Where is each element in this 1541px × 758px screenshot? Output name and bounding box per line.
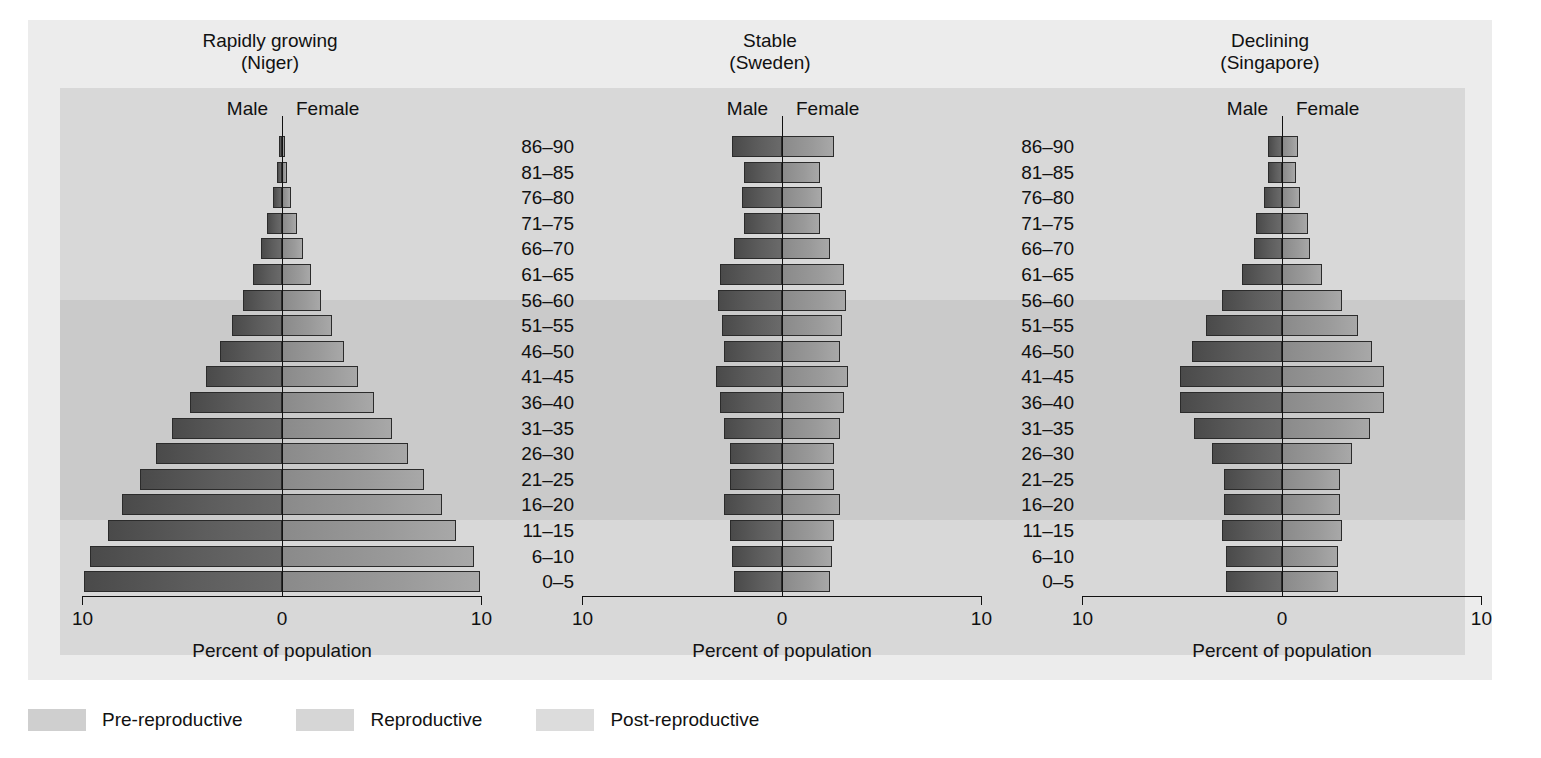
bar-female-41–45 [282,366,358,387]
bar-female-11–15 [282,520,456,541]
bar-female-76–80 [282,187,291,208]
bar-female-21–25 [282,469,424,490]
bar-male-0–5 [1226,571,1282,592]
bar-male-11–15 [1222,520,1282,541]
bar-female-36–40 [782,392,844,413]
age-group-label: 46–50 [482,339,574,365]
x-tick-label-left: 10 [72,608,93,630]
x-axis-title: Percent of population [692,640,872,662]
bar-male-36–40 [190,392,282,413]
pyramid-singapore: Male Female 10 0 10 Percent of populatio… [1082,88,1482,655]
age-group-label: 66–70 [982,236,1074,262]
bar-female-61–65 [782,264,844,285]
bar-male-61–65 [253,264,282,285]
bar-female-71–75 [782,213,820,234]
bar-male-76–80 [742,187,782,208]
bar-female-41–45 [1282,366,1384,387]
bar-male-51–55 [1206,315,1282,336]
bar-female-6–10 [782,546,832,567]
age-group-label: 86–90 [482,134,574,160]
bar-male-41–45 [206,366,282,387]
bar-female-81–85 [282,162,287,183]
bar-male-31–35 [172,418,282,439]
age-group-label: 11–15 [482,518,574,544]
bar-female-31–35 [782,418,840,439]
age-group-label: 46–50 [982,339,1074,365]
bar-male-81–85 [1268,162,1282,183]
bar-female-11–15 [1282,520,1342,541]
bar-female-16–20 [782,494,840,515]
bar-male-61–65 [1242,264,1282,285]
bar-male-41–45 [716,366,782,387]
bar-female-56–60 [1282,290,1342,311]
bar-male-16–20 [1224,494,1282,515]
bar-male-56–60 [718,290,782,311]
age-group-label: 71–75 [482,211,574,237]
age-group-label: 21–25 [982,467,1074,493]
panel-title-line1: Declining [1060,30,1480,52]
x-tick-label-right: 10 [1471,608,1492,630]
x-tick-label-center: 0 [277,608,288,630]
bar-female-76–80 [782,187,822,208]
age-group-label: 41–45 [982,364,1074,390]
bar-male-46–50 [220,341,282,362]
bar-female-31–35 [282,418,392,439]
center-axis-line [282,116,283,596]
bar-female-16–20 [1282,494,1340,515]
bar-female-36–40 [1282,392,1384,413]
bar-male-0–5 [84,571,282,592]
bar-female-81–85 [1282,162,1296,183]
x-tick-label-center: 0 [1277,608,1288,630]
bar-female-86–90 [1282,136,1298,157]
age-group-label: 51–55 [482,313,574,339]
bar-male-71–75 [267,213,282,234]
bar-female-86–90 [782,136,834,157]
age-group-label: 61–65 [482,262,574,288]
bar-female-46–50 [1282,341,1372,362]
age-label-list: 86–9081–8576–8071–7566–7061–6556–6051–55… [482,134,574,595]
bar-male-76–80 [1264,187,1282,208]
bar-female-56–60 [282,290,321,311]
center-axis-line [782,116,783,596]
bar-female-46–50 [282,341,344,362]
bar-male-66–70 [734,238,782,259]
bar-male-26–30 [156,443,282,464]
age-group-label: 6–10 [482,544,574,570]
bar-female-51–55 [1282,315,1358,336]
bar-male-46–50 [1192,341,1282,362]
bar-female-51–55 [282,315,332,336]
bar-female-6–10 [1282,546,1338,567]
bar-male-26–30 [730,443,782,464]
legend-swatch [536,709,594,731]
age-group-label: 11–15 [982,518,1074,544]
x-tick-left [582,596,583,605]
bar-male-71–75 [1256,213,1282,234]
male-label: Male [1227,98,1268,120]
age-label-list: 86–9081–8576–8071–7566–7061–6556–6051–55… [982,134,1074,595]
bar-male-51–55 [722,315,782,336]
panel-title-line2: (Singapore) [1060,52,1480,74]
bar-female-11–15 [782,520,834,541]
age-group-label: 81–85 [482,160,574,186]
bar-male-6–10 [732,546,782,567]
bar-male-46–50 [724,341,782,362]
panel-title-line2: (Sweden) [560,52,980,74]
legend-label: Pre-reproductive [102,709,242,731]
age-group-label: 31–35 [982,416,1074,442]
panel-title-sweden: Stable (Sweden) [560,30,980,75]
age-group-label: 51–55 [982,313,1074,339]
bar-male-66–70 [261,238,282,259]
bar-male-0–5 [734,571,782,592]
legend-swatch [296,709,354,731]
bar-female-16–20 [282,494,442,515]
x-tick-left [82,596,83,605]
female-label: Female [296,98,359,120]
bar-male-36–40 [1180,392,1282,413]
legend-label: Reproductive [370,709,482,731]
age-group-label: 16–20 [482,492,574,518]
bar-male-6–10 [90,546,282,567]
legend: Pre-reproductiveReproductivePost-reprodu… [28,700,1428,740]
bar-female-36–40 [282,392,374,413]
age-group-label: 6–10 [982,544,1074,570]
legend-item: Post-reproductive [536,709,759,731]
